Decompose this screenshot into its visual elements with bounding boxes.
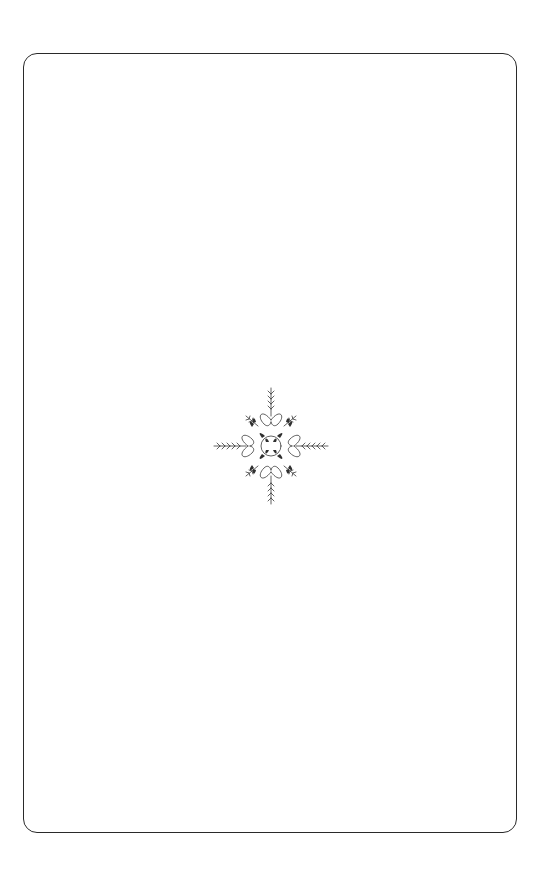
floral-cross-ornament-icon (212, 386, 330, 506)
